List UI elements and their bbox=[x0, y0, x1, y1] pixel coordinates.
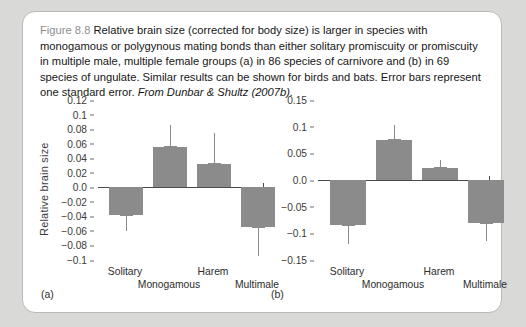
x-tick-label: Monogamous bbox=[362, 279, 424, 290]
error-bar-multimale bbox=[258, 227, 259, 256]
x-tick-label: Solitary bbox=[108, 266, 142, 277]
y-tick-label: −0.02 bbox=[61, 196, 87, 207]
bar-solitary bbox=[330, 180, 366, 225]
chart-panel-b: 0.150.10.050.0−0.05−0.1−0.15 SolitaryMon… bbox=[267, 100, 499, 312]
x-tick-label: Monogamous bbox=[138, 279, 200, 290]
x-axis-tick-labels-b: SolitaryMonogamousHaremMultimale bbox=[267, 262, 499, 296]
bar-monogamous bbox=[153, 147, 187, 187]
error-bar-solitary bbox=[126, 215, 127, 231]
x-tick-label: Harem bbox=[198, 266, 229, 277]
x-axis-tick-labels-a: SolitaryMonogamousHaremMultimale bbox=[31, 262, 269, 296]
y-tick-label: 0.04 bbox=[67, 153, 87, 164]
error-bar-harem bbox=[440, 160, 441, 169]
error-bar-solitary bbox=[348, 225, 349, 244]
error-bar-monogamous bbox=[394, 125, 395, 140]
figure-card: Figure 8.8 Relative brain size (correcte… bbox=[22, 11, 502, 313]
y-tick-label: 0.0 bbox=[73, 182, 87, 193]
y-tick-label: 0.06 bbox=[67, 138, 87, 149]
bar-monogamous bbox=[376, 140, 412, 180]
bar-solitary bbox=[109, 187, 143, 215]
bar-harem bbox=[197, 164, 231, 187]
charts-container: Relative brain size 0.120.10.080.060.040… bbox=[23, 100, 503, 312]
y-tick-label: 0.15 bbox=[287, 95, 307, 106]
y-tick-label: 0.05 bbox=[287, 148, 307, 159]
y-tick-label: −0.08 bbox=[61, 240, 87, 251]
y-tick-label: 0.0 bbox=[293, 175, 307, 186]
y-tick-label: 0.02 bbox=[67, 167, 87, 178]
panel-label-b: (b) bbox=[271, 288, 284, 300]
panel-label-a: (a) bbox=[41, 288, 54, 300]
x-tick-label: Harem bbox=[424, 266, 455, 277]
y-tick-label: −0.1 bbox=[287, 228, 307, 239]
y-tick-label: 0.08 bbox=[67, 124, 87, 135]
plot-area-b bbox=[317, 100, 490, 260]
y-axis-tick-labels-a: 0.120.10.080.060.040.020.0−0.02−0.04−0.0… bbox=[53, 100, 95, 260]
bar-multimale bbox=[468, 180, 504, 223]
x-tick-label: Multimale bbox=[463, 279, 507, 290]
y-tick-label: 0.1 bbox=[73, 109, 87, 120]
y-tick-label: −0.05 bbox=[281, 201, 307, 212]
x-tick-label: Solitary bbox=[330, 266, 364, 277]
y-tick-label: −0.04 bbox=[61, 211, 87, 222]
figure-caption: Figure 8.8 Relative brain size (correcte… bbox=[40, 23, 486, 101]
error-bar-monogamous bbox=[170, 125, 171, 147]
y-tick-label: 0.1 bbox=[293, 121, 307, 132]
chart-panel-a: Relative brain size 0.120.10.080.060.040… bbox=[31, 100, 269, 312]
plot-area-a bbox=[97, 100, 264, 260]
error-bar-multimale bbox=[486, 223, 487, 242]
figure-source: From Dunbar & Shultz (2007b). bbox=[138, 86, 293, 98]
y-tick-label: −0.06 bbox=[61, 225, 87, 236]
bar-harem bbox=[422, 168, 458, 180]
y-axis-tick-labels-b: 0.150.10.050.0−0.05−0.1−0.15 bbox=[273, 100, 315, 260]
y-axis-title: Relative brain size bbox=[35, 114, 53, 264]
figure-number: Figure 8.8 bbox=[40, 24, 90, 36]
y-tick-label: 0.12 bbox=[67, 95, 87, 106]
error-bar-harem bbox=[214, 133, 215, 164]
